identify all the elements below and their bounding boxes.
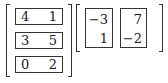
- right-matrix-close-bracket: [159, 4, 163, 52]
- right-matrix-open-bracket: [76, 4, 80, 52]
- left-matrix-close-bracket: [68, 4, 72, 77]
- cell-c2-r1: 7: [134, 13, 142, 26]
- cell-c2-r2: −2: [123, 32, 142, 45]
- cell-c1-r1: −3: [89, 13, 108, 26]
- left-matrix-open-bracket: [6, 4, 10, 77]
- left-matrix-row-1: 4 1: [15, 8, 63, 25]
- cell-r1-c2: 1: [49, 10, 57, 23]
- left-matrix-row-2: 3 5: [15, 32, 63, 49]
- cell-r2-c2: 5: [49, 34, 57, 47]
- cell-r3-c2: 2: [49, 58, 57, 71]
- cell-r1-c1: 4: [21, 10, 29, 23]
- cell-r3-c1: 0: [21, 58, 29, 71]
- cell-r2-c1: 3: [21, 34, 29, 47]
- right-matrix-column-1: −3 1: [85, 8, 113, 48]
- left-matrix-row-3: 0 2: [15, 56, 63, 73]
- right-matrix-column-2: 7 −2: [120, 8, 147, 48]
- cell-c1-r2: 1: [100, 32, 108, 45]
